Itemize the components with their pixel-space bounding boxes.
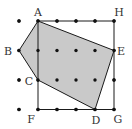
label-A: A bbox=[33, 6, 43, 19]
grid-dot bbox=[112, 78, 115, 81]
grid-dot bbox=[17, 108, 20, 111]
grid-dot bbox=[112, 108, 115, 111]
grid-dot bbox=[17, 49, 20, 52]
grid-dot bbox=[36, 19, 39, 22]
grid-dot bbox=[93, 78, 96, 81]
grid-dot bbox=[74, 19, 77, 22]
label-E: E bbox=[117, 45, 125, 58]
grid-dot bbox=[36, 78, 39, 81]
grid-dot bbox=[17, 78, 20, 81]
grid-dot bbox=[55, 19, 58, 22]
shaded-pentagon-AEDCB bbox=[19, 21, 114, 110]
grid-dot bbox=[112, 49, 115, 52]
grid-dot bbox=[55, 78, 58, 81]
grid-dot bbox=[112, 19, 115, 22]
grid-dot bbox=[55, 49, 58, 52]
grid-dot bbox=[74, 49, 77, 52]
label-H: H bbox=[114, 6, 124, 19]
grid-dot bbox=[36, 49, 39, 52]
geometry-diagram: A H B E C F D G bbox=[0, 0, 132, 129]
grid-dot bbox=[93, 19, 96, 22]
grid-dot bbox=[36, 108, 39, 111]
label-D: D bbox=[92, 114, 101, 127]
label-G: G bbox=[114, 113, 123, 126]
grid-dot bbox=[55, 108, 58, 111]
grid-dot bbox=[93, 108, 96, 111]
label-C: C bbox=[25, 75, 33, 88]
label-B: B bbox=[4, 45, 12, 58]
grid-dot bbox=[17, 19, 20, 22]
grid-dot bbox=[74, 78, 77, 81]
grid-dot bbox=[93, 49, 96, 52]
label-F: F bbox=[27, 113, 35, 126]
grid-dot bbox=[74, 108, 77, 111]
